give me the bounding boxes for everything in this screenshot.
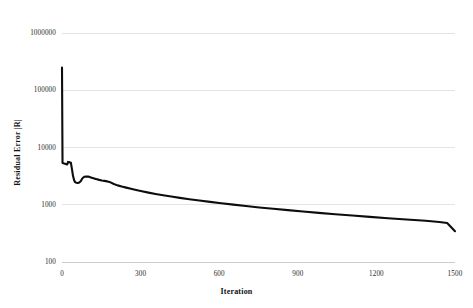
x-tick-label: 600 bbox=[189, 270, 249, 278]
y-tick-label: 100000 bbox=[0, 86, 56, 94]
x-axis-title: Iteration bbox=[0, 287, 473, 296]
y-tick-label: 1000000 bbox=[0, 29, 56, 37]
y-tick-label: 100 bbox=[0, 258, 56, 266]
residual-error-chart: 1000000100000100001000100 03006009001200… bbox=[0, 0, 473, 308]
x-tick-label: 300 bbox=[111, 270, 171, 278]
x-tick-label: 1200 bbox=[346, 270, 406, 278]
gridlines bbox=[62, 33, 455, 262]
series-line-0 bbox=[62, 67, 455, 231]
data-series bbox=[62, 67, 455, 231]
x-tick-label: 900 bbox=[268, 270, 328, 278]
y-tick-label: 10000 bbox=[0, 144, 56, 152]
x-tick-label: 0 bbox=[32, 270, 92, 278]
y-tick-label: 1000 bbox=[0, 201, 56, 209]
chart-plot-area bbox=[0, 0, 473, 308]
y-axis-title: Residual Error |R| bbox=[13, 93, 22, 213]
x-tick-label: 1500 bbox=[425, 270, 473, 278]
